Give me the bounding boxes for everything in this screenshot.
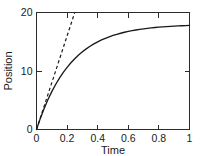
position-vs-time-chart: 0 0.2 0.4 0.6 0.8 1 0 10 20 Time Positio… (0, 0, 201, 155)
y-tick-label-0: 0 (27, 123, 33, 135)
x-tick-label-0.4: 0.4 (90, 132, 105, 144)
y-tick-label-10: 10 (21, 65, 33, 77)
y-axis-title: Position (2, 51, 14, 90)
x-axis-ticks-bottom (37, 125, 190, 130)
x-tick-label-0: 0 (34, 132, 40, 144)
x-tick-label-1: 1 (187, 132, 193, 144)
x-tick-label-0.8: 0.8 (152, 132, 167, 144)
x-tick-label-0.6: 0.6 (121, 132, 136, 144)
y-tick-label-20: 20 (21, 6, 33, 18)
chart-figure: 0 0.2 0.4 0.6 0.8 1 0 10 20 Time Positio… (0, 0, 201, 155)
x-tick-label-0.2: 0.2 (60, 132, 75, 144)
x-axis-title: Time (101, 144, 125, 156)
position-curve (37, 25, 190, 129)
y-axis-ticks-left (37, 13, 42, 130)
plot-frame (37, 13, 190, 130)
x-axis-ticks-top (67, 13, 159, 18)
